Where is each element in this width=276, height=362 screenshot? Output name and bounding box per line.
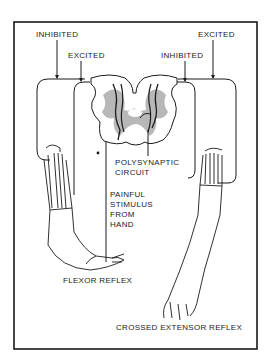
label-inhibited-left: INHIBITED [36,30,78,40]
label-excited-right: EXCITED [198,30,235,40]
right-outer-nerve [178,79,236,183]
diagram-drawing [0,0,276,362]
label-painful-stimulus: PAINFUL STIMULUS FROM HAND [110,190,153,230]
reflex-diagram: INHIBITED EXCITED INHIBITED EXCITED POLY… [0,0,276,362]
label-inhibited-right: INHIBITED [161,51,203,61]
ganglion-dot [97,152,100,155]
left-inner-nerve [74,82,90,195]
label-excited-left: EXCITED [68,51,105,61]
spinal-cord-section [91,75,177,145]
label-flexor-reflex: FLEXOR REFLEX [63,276,132,286]
label-polysynaptic-circuit: POLYSYNAPTIC CIRCUIT [115,158,179,178]
left-outer-nerve [37,79,85,160]
label-crossed-extensor-reflex: CROSSED EXTENSOR REFLEX [116,323,242,333]
